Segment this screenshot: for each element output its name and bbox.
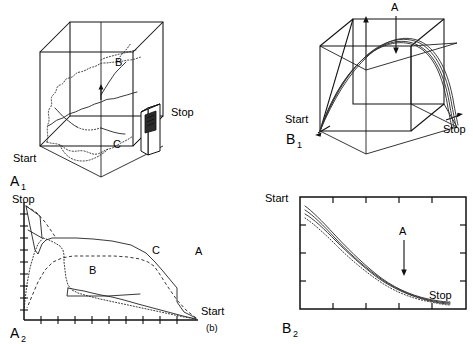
b1-panel-label: B 1 — [286, 131, 302, 150]
b1-mark-a: A — [391, 1, 399, 13]
a1-start-label: Start — [13, 152, 36, 164]
svg-text:1: 1 — [297, 140, 302, 150]
a2-mark-b: B — [89, 264, 96, 276]
b2-mark-a-arrow — [401, 240, 407, 276]
b1-vertical-axis — [363, 16, 369, 70]
a1-box-object — [141, 104, 160, 155]
a2-stop-label: Stop — [12, 193, 35, 205]
svg-text:B: B — [286, 131, 295, 147]
panel-b1: A Start Stop B 1 — [285, 1, 466, 154]
b2-left-ticks — [300, 225, 306, 281]
a2-mark-c: C — [152, 244, 160, 256]
b2-mark-a: A — [399, 225, 407, 237]
a1-trajectory — [47, 43, 141, 161]
figure-svg: B C Stop Start A 1 — [0, 0, 473, 344]
a2-start-label: Start — [201, 305, 224, 317]
b1-start-label: Start — [285, 113, 308, 125]
figure-root: B C Stop Start A 1 — [0, 0, 473, 344]
panel-b2: A Start Stop B 2 — [265, 192, 466, 339]
b2-top-ticks — [333, 197, 432, 203]
b2-stop-label: Stop — [429, 289, 452, 301]
svg-text:B: B — [282, 320, 291, 336]
svg-text:2: 2 — [21, 334, 26, 344]
a1-mark-c: C — [113, 138, 121, 150]
b2-start-label: Start — [265, 192, 288, 204]
a2-mark-a: A — [195, 245, 203, 257]
b1-mark-a-arrow — [393, 16, 399, 54]
a2-curves — [24, 206, 196, 319]
panel-a2: Stop Start A B C (b) A 2 — [10, 193, 224, 344]
a1-panel-label: A 1 — [10, 173, 26, 192]
a1-stop-label: Stop — [171, 106, 194, 118]
a1-mark-b: B — [115, 56, 122, 68]
svg-text:A: A — [10, 325, 20, 341]
figure-caption: (b) — [206, 322, 218, 333]
svg-text:A: A — [10, 173, 20, 189]
svg-text:2: 2 — [293, 329, 298, 339]
b2-panel-label: B 2 — [282, 320, 298, 339]
panel-a1: B C Stop Start A 1 — [10, 22, 194, 192]
a2-panel-label: A 2 — [10, 325, 26, 344]
svg-text:1: 1 — [21, 182, 26, 192]
b2-right-ticks — [460, 225, 466, 281]
b2-bottom-ticks — [333, 303, 432, 309]
b1-stop-label: Stop — [443, 123, 466, 135]
